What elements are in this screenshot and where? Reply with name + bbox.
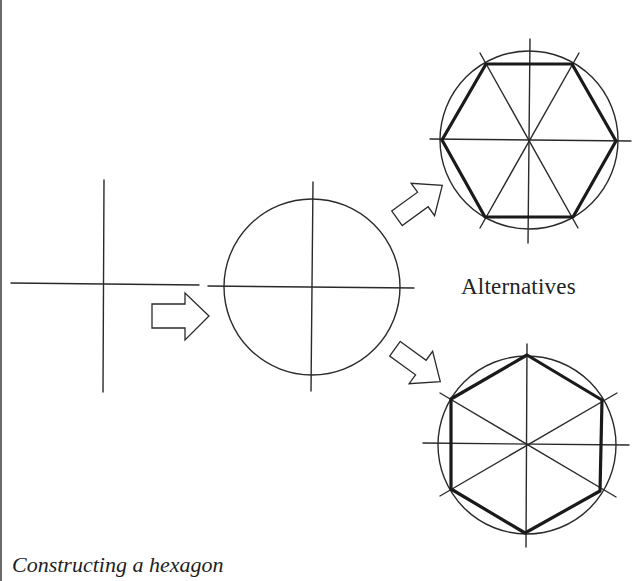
step-3a-flat-top-hexagon bbox=[430, 39, 631, 243]
alternatives-label: Alternatives bbox=[461, 274, 576, 300]
down-right-arrow-icon bbox=[383, 333, 452, 398]
figure-caption: Constructing a hexagon bbox=[12, 552, 223, 578]
diagram-frame: Alternatives Constructing a hexagon bbox=[0, 0, 643, 581]
up-right-arrow-icon bbox=[385, 169, 454, 234]
vertical-guide-line bbox=[103, 180, 104, 392]
horizontal-guide-line bbox=[208, 286, 414, 288]
step-2-circle bbox=[208, 182, 414, 391]
step-1-crossed-lines bbox=[11, 180, 199, 392]
step-3b-pointy-top-hexagon bbox=[423, 344, 629, 547]
horizontal-guide-line bbox=[11, 283, 199, 285]
right-arrow-icon bbox=[152, 293, 209, 340]
